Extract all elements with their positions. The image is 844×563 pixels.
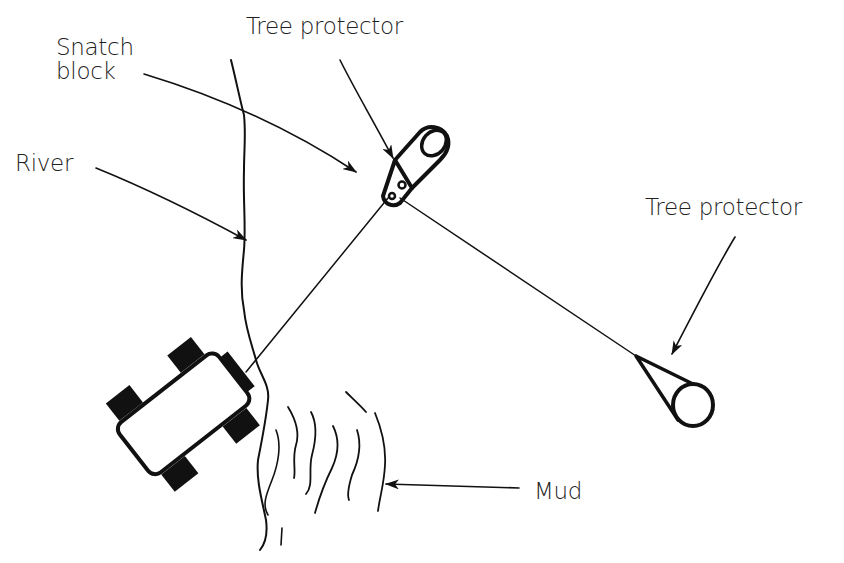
river-arrow xyxy=(96,168,246,240)
diagram-drawing xyxy=(0,0,844,563)
tree-protector-icon xyxy=(636,356,713,426)
wheel-icon xyxy=(167,337,204,373)
wheel-icon xyxy=(223,408,260,444)
winch-icon xyxy=(220,352,255,393)
snatch-block-arrow xyxy=(144,74,356,172)
winching-diagram: Snatch block Tree protector River Tree p… xyxy=(0,0,844,563)
winch-cable-to-anchor xyxy=(400,198,636,356)
mud-arrow xyxy=(386,484,519,488)
snatch-block-icon xyxy=(383,125,451,205)
mud-marks xyxy=(288,392,385,513)
river-bank-line xyxy=(231,60,268,550)
wheel-icon xyxy=(161,456,198,492)
river-detail-line xyxy=(265,430,279,515)
tree-protector-right-arrow xyxy=(672,237,735,354)
tree-protector-top-arrow xyxy=(340,60,393,158)
wheel-icon xyxy=(106,385,143,421)
vehicle-icon xyxy=(99,325,275,497)
river-detail-tick xyxy=(281,528,282,545)
winch-cable-to-block xyxy=(246,198,388,372)
